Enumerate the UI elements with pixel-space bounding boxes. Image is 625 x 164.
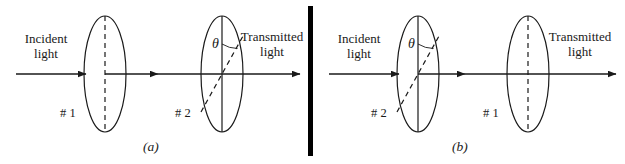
theta-symbol-a: θ	[212, 36, 219, 52]
transmitted-light-line1-a: Transmitted	[233, 30, 311, 45]
incident-light-line2-a: light	[10, 47, 82, 62]
incident-light-label-a: Incident light	[10, 32, 82, 61]
polarizer-2-label-a: # 2	[175, 106, 191, 120]
panel-divider	[308, 6, 313, 156]
transmitted-light-label-b: Transmitted light	[540, 30, 620, 59]
incident-light-line1-b: Incident	[323, 32, 395, 47]
polarizer-pair-figure: Incident light Transmitted light # 1 # 2…	[0, 0, 625, 164]
angle-arc-b	[418, 44, 434, 49]
panel-caption-a: (a)	[143, 139, 159, 154]
incident-light-line2-b: light	[323, 47, 395, 62]
theta-symbol-b: θ	[408, 36, 415, 52]
polarizer-1-label-a: # 1	[60, 106, 76, 120]
incident-light-line1-a: Incident	[10, 32, 82, 47]
panel-caption-b: (b)	[452, 139, 468, 154]
transmitted-light-label-a: Transmitted light	[233, 30, 311, 59]
incident-light-label-b: Incident light	[323, 32, 395, 61]
polarizer-1-label-b: # 1	[483, 106, 499, 120]
polarizer-2-label-b: # 2	[371, 106, 387, 120]
transmitted-light-line2-a: light	[233, 45, 311, 60]
transmitted-light-line1-b: Transmitted	[540, 30, 620, 45]
transmitted-light-line2-b: light	[540, 45, 620, 60]
figure-vector-layer	[0, 0, 625, 164]
